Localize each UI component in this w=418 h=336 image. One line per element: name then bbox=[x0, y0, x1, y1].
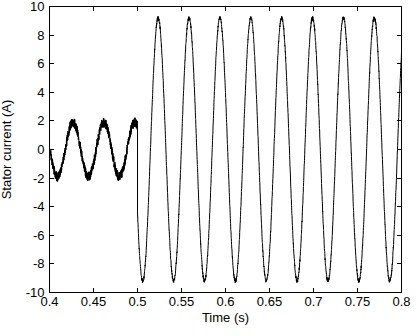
stator-current-trace bbox=[50, 16, 402, 282]
y-tick-labels: 1086420-2-4-6-8-10 bbox=[26, 0, 45, 300]
x-tick-label: 0.8 bbox=[392, 294, 410, 309]
x-tick-labels: 0.40.450.50.550.60.650.70.750.8 bbox=[40, 294, 410, 309]
y-tick-label: 10 bbox=[30, 0, 44, 14]
x-axis-label: Time (s) bbox=[202, 310, 249, 325]
y-tick-label: -8 bbox=[33, 256, 45, 271]
y-tick-label: 6 bbox=[37, 56, 44, 71]
y-tick-label: 2 bbox=[37, 113, 44, 128]
y-tick-label: 4 bbox=[37, 85, 44, 100]
x-tick-label: 0.45 bbox=[81, 294, 106, 309]
y-tick-label: -10 bbox=[26, 285, 45, 300]
x-tick-label: 0.55 bbox=[169, 294, 194, 309]
matlab-figure: 0.40.450.50.550.60.650.70.750.8 1086420-… bbox=[0, 0, 418, 336]
stator-current-chart: 0.40.450.50.550.60.650.70.750.8 1086420-… bbox=[0, 0, 418, 336]
y-tick-label: 0 bbox=[37, 142, 44, 157]
y-tick-label: -6 bbox=[33, 228, 45, 243]
y-axis-label: Stator current (A) bbox=[0, 100, 14, 200]
x-tick-label: 0.6 bbox=[216, 294, 234, 309]
y-tick-label: -2 bbox=[33, 171, 45, 186]
plot-area-border bbox=[50, 7, 402, 293]
y-tick-label: 8 bbox=[37, 28, 44, 43]
x-tick-label: 0.65 bbox=[257, 294, 282, 309]
x-tick-label: 0.5 bbox=[128, 294, 146, 309]
y-tick-label: -4 bbox=[33, 199, 45, 214]
x-tick-label: 0.75 bbox=[345, 294, 370, 309]
axis-ticks bbox=[50, 7, 402, 293]
x-tick-label: 0.7 bbox=[304, 294, 322, 309]
